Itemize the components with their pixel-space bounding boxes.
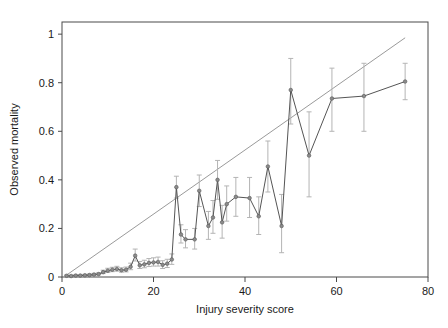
observed-mortality-plot: 00.20.40.60.81020406080Injury severity s… bbox=[0, 0, 448, 328]
x-tick-label: 60 bbox=[330, 285, 342, 297]
data-point-marker bbox=[234, 195, 238, 199]
data-point-marker bbox=[74, 274, 78, 278]
data-point-marker bbox=[147, 261, 151, 265]
data-point-marker bbox=[197, 189, 201, 193]
data-point-marker bbox=[115, 267, 119, 271]
y-tick-label: 1 bbox=[48, 28, 54, 40]
data-point-marker bbox=[248, 196, 252, 200]
data-point-marker bbox=[179, 233, 183, 237]
data-point-marker bbox=[120, 268, 124, 272]
data-point-marker bbox=[129, 265, 133, 269]
data-point-marker bbox=[83, 274, 87, 278]
y-tick-label: 0 bbox=[48, 271, 54, 283]
data-point-marker bbox=[152, 261, 156, 265]
data-point-marker bbox=[143, 263, 147, 267]
chart-figure: 00.20.40.60.81020406080Injury severity s… bbox=[0, 0, 448, 328]
data-point-marker bbox=[257, 214, 261, 218]
y-axis-title: Observed mortality bbox=[8, 103, 20, 196]
data-point-marker bbox=[307, 154, 311, 158]
x-tick-label: 0 bbox=[59, 285, 65, 297]
data-point-marker bbox=[97, 272, 101, 276]
x-tick-label: 80 bbox=[422, 285, 434, 297]
data-point-marker bbox=[165, 262, 169, 266]
data-point-marker bbox=[280, 224, 284, 228]
data-point-marker bbox=[403, 80, 407, 84]
data-point-marker bbox=[133, 254, 137, 258]
data-point-marker bbox=[330, 97, 334, 101]
data-point-marker bbox=[69, 274, 73, 278]
data-point-marker bbox=[289, 88, 293, 92]
data-point-marker bbox=[220, 221, 224, 225]
data-point-marker bbox=[362, 94, 366, 98]
x-tick-label: 20 bbox=[147, 285, 159, 297]
x-axis-title: Injury severity score bbox=[196, 303, 294, 315]
data-point-marker bbox=[79, 274, 83, 278]
data-point-marker bbox=[92, 273, 96, 277]
data-point-marker bbox=[65, 274, 69, 278]
data-point-marker bbox=[111, 268, 115, 272]
y-tick-label: 0.6 bbox=[39, 125, 54, 137]
data-point-marker bbox=[207, 224, 211, 228]
data-point-marker bbox=[156, 260, 160, 264]
data-point-marker bbox=[193, 238, 197, 242]
data-point-marker bbox=[124, 268, 128, 272]
data-point-marker bbox=[101, 270, 105, 274]
data-point-marker bbox=[184, 238, 188, 242]
data-point-marker bbox=[225, 202, 229, 206]
y-tick-label: 0.4 bbox=[39, 174, 54, 186]
data-point-marker bbox=[211, 216, 215, 220]
data-point-marker bbox=[216, 178, 220, 182]
data-point-marker bbox=[266, 165, 270, 169]
y-tick-label: 0.2 bbox=[39, 222, 54, 234]
data-point-marker bbox=[138, 264, 142, 268]
y-tick-label: 0.8 bbox=[39, 77, 54, 89]
data-point-marker bbox=[88, 273, 92, 277]
data-point-marker bbox=[170, 258, 174, 262]
diagonal-reference-line bbox=[67, 38, 406, 275]
x-tick-label: 40 bbox=[239, 285, 251, 297]
data-point-marker bbox=[106, 269, 110, 273]
data-point-marker bbox=[161, 263, 165, 267]
data-point-marker bbox=[175, 185, 179, 189]
